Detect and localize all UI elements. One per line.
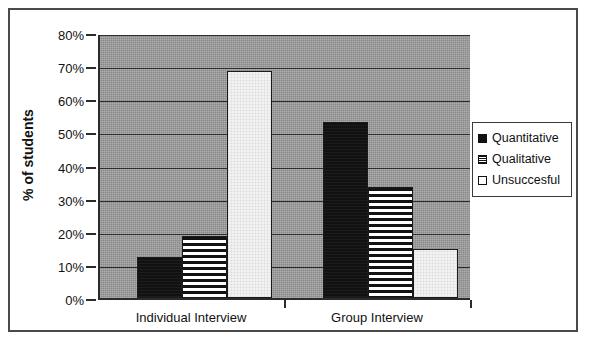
chart-page: % of students 80%70%60%50%40%30%20%10%0%… bbox=[0, 0, 594, 348]
legend-label-quantitative: Quantitative bbox=[492, 132, 559, 145]
gridline bbox=[100, 68, 470, 69]
y-axis-tick-mark bbox=[86, 233, 96, 235]
y-axis-tick-mark bbox=[86, 200, 96, 202]
gridline bbox=[100, 234, 470, 235]
bar-quantitative-group-interview bbox=[323, 122, 368, 298]
y-axis-tick-label: 40% bbox=[58, 160, 84, 175]
gridline bbox=[100, 134, 470, 135]
y-axis-tick-mark bbox=[86, 299, 96, 301]
y-axis-tick-label: 30% bbox=[58, 193, 84, 208]
legend: Quantitative Qualitative Unsuccesful bbox=[472, 122, 572, 197]
bar-unsuccesful-group-interview bbox=[413, 249, 458, 298]
chart-frame: % of students 80%70%60%50%40%30%20%10%0%… bbox=[8, 8, 578, 332]
y-axis-tick-label: 50% bbox=[58, 127, 84, 142]
legend-item-unsuccesful: Unsuccesful bbox=[478, 170, 567, 191]
plot-area bbox=[98, 35, 470, 300]
bar-unsuccesful-individual-interview bbox=[227, 71, 272, 298]
x-axis-end-tick-mark bbox=[470, 300, 472, 308]
legend-label-unsuccesful: Unsuccesful bbox=[492, 174, 560, 187]
legend-swatch-unsuccesful-icon bbox=[478, 176, 487, 185]
gridline bbox=[100, 201, 470, 202]
legend-swatch-qualitative-icon bbox=[478, 155, 487, 164]
y-axis-tick-mark bbox=[86, 34, 96, 36]
y-axis-tick-label: 0% bbox=[65, 293, 84, 308]
y-axis-tick-mark bbox=[86, 100, 96, 102]
legend-item-qualitative: Qualitative bbox=[478, 149, 567, 170]
gridline bbox=[100, 101, 470, 102]
legend-swatch-quantitative-icon bbox=[478, 134, 487, 143]
legend-item-quantitative: Quantitative bbox=[478, 128, 567, 149]
y-axis: 80%70%60%50%40%30%20%10%0% bbox=[10, 10, 98, 310]
y-axis-tick-mark bbox=[86, 67, 96, 69]
y-axis-tick-label: 80% bbox=[58, 28, 84, 43]
y-axis-tick-mark bbox=[86, 167, 96, 169]
gridline bbox=[100, 35, 470, 36]
x-axis-tick-label: Individual Interview bbox=[136, 310, 247, 325]
x-axis-tick-label: Group Interview bbox=[331, 310, 423, 325]
y-axis-tick-label: 70% bbox=[58, 61, 84, 76]
x-axis-tick-mark bbox=[284, 300, 286, 308]
gridline bbox=[100, 168, 470, 169]
y-axis-tick-mark bbox=[86, 133, 96, 135]
y-axis-tick-mark bbox=[86, 266, 96, 268]
y-axis-tick-label: 20% bbox=[58, 226, 84, 241]
legend-label-qualitative: Qualitative bbox=[492, 153, 551, 166]
y-axis-tick-label: 10% bbox=[58, 259, 84, 274]
bar-qualitative-individual-interview bbox=[182, 236, 227, 298]
bar-qualitative-group-interview bbox=[368, 187, 413, 298]
y-axis-tick-label: 60% bbox=[58, 94, 84, 109]
bar-quantitative-individual-interview bbox=[137, 257, 182, 298]
